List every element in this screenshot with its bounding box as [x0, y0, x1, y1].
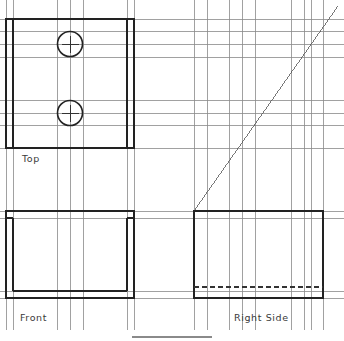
- technical-drawing-canvas: Top Front Right Side: [0, 0, 344, 341]
- view-label-right-side: Right Side: [234, 312, 289, 323]
- projection-construction-lines: [0, 0, 344, 330]
- miter-line: [194, 6, 338, 211]
- miter-line-45deg: [194, 6, 338, 211]
- view-label-front: Front: [20, 312, 47, 323]
- orthographic-projection-drawing: Top Front Right Side: [0, 0, 344, 341]
- view-label-top: Top: [21, 153, 40, 164]
